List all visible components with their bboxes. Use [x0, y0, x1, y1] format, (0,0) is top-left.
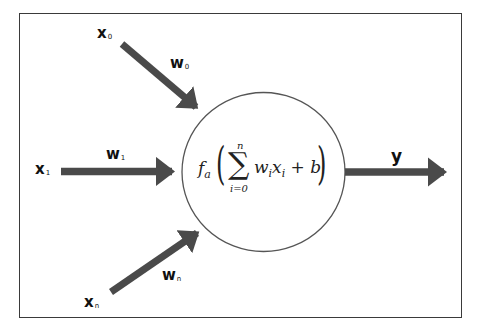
weight-label-w1: w1 — [106, 147, 125, 162]
input-x1-subscript: 1 — [46, 169, 50, 177]
term-w: w — [254, 157, 269, 177]
input-x0-subscript: 0 — [108, 33, 112, 41]
close-paren: ) — [317, 142, 326, 186]
input-x0-text: x — [97, 24, 107, 42]
output-label-y: y — [391, 148, 402, 165]
weight-label-w0: w0 — [170, 56, 189, 71]
function-subscript: a — [204, 168, 211, 181]
input-xn-text: x — [84, 293, 94, 311]
weight-wn-subscript: n — [177, 275, 181, 283]
input-arrow-x0 — [122, 44, 196, 107]
weight-w1-text: w — [106, 145, 120, 163]
sum-symbol: ∑ — [228, 149, 249, 179]
activation-formula: fa ( n ∑ i=0 wixi + b ) — [196, 140, 326, 200]
input-label-x0: x0 — [97, 26, 112, 41]
output-y-text: y — [391, 146, 402, 166]
input-xn-subscript: n — [95, 302, 99, 310]
weight-w0-text: w — [170, 54, 184, 72]
weight-wn-text: w — [162, 266, 176, 284]
input-arrow-xn — [111, 233, 197, 292]
weight-w1-subscript: 1 — [121, 154, 125, 162]
weight-w0-subscript: 0 — [185, 63, 189, 71]
bias-term: + b — [285, 157, 321, 177]
input-label-x1: x1 — [35, 162, 50, 177]
activation-function: fa — [198, 158, 211, 181]
open-paren: ( — [216, 142, 225, 186]
weight-label-wn: wn — [162, 268, 181, 283]
sum-lower-limit: i=0 — [230, 183, 248, 194]
weighted-sum-term: wixi + b — [254, 157, 321, 180]
input-x1-text: x — [35, 160, 45, 178]
input-label-xn: xn — [84, 295, 99, 310]
term-x: x — [272, 157, 282, 177]
